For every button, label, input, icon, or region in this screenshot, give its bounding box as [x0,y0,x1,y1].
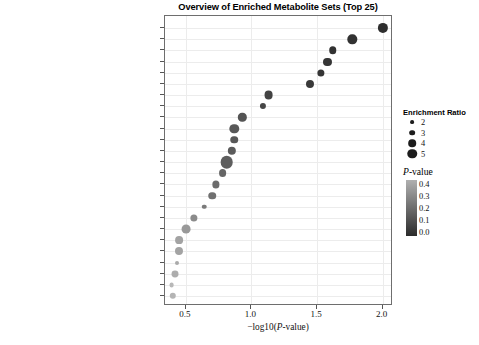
y-axis-tick [160,72,164,73]
y-gridline [165,207,391,208]
data-point [212,181,219,188]
data-point [323,57,331,65]
x-axis-title-suffix: -value) [282,322,308,332]
p-value-legend-title: P-value [403,166,433,177]
y-gridline [165,151,391,152]
x-axis-title: −log10(P-value) [164,322,392,332]
y-gridline [165,296,391,297]
enrichment-ratio-legend-dot [408,139,416,147]
x-axis-title-prefix: −log10( [247,322,277,332]
y-axis-tick [160,150,164,151]
data-point [220,156,233,169]
y-gridline [165,196,391,197]
page-title: Overview of Enriched Metabolite Sets (To… [164,2,392,12]
data-point [219,169,227,177]
data-point [190,214,197,221]
y-gridline [165,95,391,96]
data-point [230,124,239,133]
enrichment-ratio-legend-label: 5 [421,149,425,158]
y-gridline [165,84,391,85]
metabolite-enrichment-chart: Overview of Enriched Metabolite Sets (To… [0,0,479,345]
y-axis-tick [160,139,164,140]
data-point [176,236,184,244]
y-axis-tick [160,183,164,184]
data-point [208,192,216,200]
data-point [231,136,239,144]
y-gridline [165,140,391,141]
x-axis-tick-label: 1.0 [245,309,256,319]
y-gridline [165,106,391,107]
y-gridline [165,229,391,230]
y-axis-tick [160,49,164,50]
y-axis-tick [160,217,164,218]
p-value-legend-label: 0.1 [419,216,429,225]
y-gridline [165,73,391,74]
enrichment-ratio-legend-dot [407,149,417,159]
p-value-legend-title-suffix: -value [409,166,433,177]
y-gridline [165,28,391,29]
y-axis-tick [160,284,164,285]
y-axis-tick [160,239,164,240]
x-gridline [317,16,318,304]
y-axis-tick [160,228,164,229]
y-gridline [165,129,391,130]
data-point [306,80,314,88]
y-axis-tick [160,128,164,129]
y-axis-tick [160,273,164,274]
y-gridline [165,251,391,252]
data-point [329,47,337,55]
y-gridline [165,285,391,286]
y-axis-tick [160,262,164,263]
y-axis-tick [160,83,164,84]
y-gridline [165,218,391,219]
p-value-legend-label: 0.0 [419,228,429,237]
y-axis-tick [160,250,164,251]
plot-area [164,15,392,305]
x-axis-tick-label: 0.5 [179,309,190,319]
x-gridline [186,16,187,304]
data-point [228,147,236,155]
y-gridline [165,184,391,185]
x-axis-tick-label: 2.0 [376,309,387,319]
data-point [317,69,324,76]
p-value-legend-label: 0.2 [419,204,429,213]
data-point [348,34,357,43]
enrichment-ratio-legend-dot [409,130,415,136]
p-value-gradient-bar [406,180,417,236]
data-point [175,261,179,265]
y-axis-tick [160,94,164,95]
y-gridline [165,39,391,40]
y-gridline [165,162,391,163]
y-gridline [165,173,391,174]
y-axis-tick [160,27,164,28]
data-point [202,204,207,209]
y-axis-tick [160,172,164,173]
enrichment-ratio-legend-dot [410,120,414,124]
data-point [238,113,246,121]
y-axis-tick [160,206,164,207]
y-axis-tick [160,195,164,196]
x-gridline [383,16,384,304]
data-point [175,247,183,255]
y-gridline [165,62,391,63]
enrichment-ratio-legend-label: 4 [421,139,425,148]
data-point [264,91,273,100]
y-axis-tick [160,105,164,106]
data-point [182,225,191,234]
y-axis-tick [160,38,164,39]
y-axis-tick [160,116,164,117]
y-axis-tick [160,161,164,162]
y-gridline [165,274,391,275]
x-axis-tick-label: 1.5 [310,309,321,319]
p-value-legend-label: 0.4 [419,180,429,189]
data-point [260,103,266,109]
y-gridline [165,50,391,51]
data-point [170,293,176,299]
x-gridline [251,16,252,304]
data-point [377,23,387,33]
p-value-legend-label: 0.3 [419,192,429,201]
enrichment-ratio-legend-label: 2 [421,118,425,127]
y-gridline [165,117,391,118]
data-point [169,282,174,287]
data-point [172,270,179,277]
